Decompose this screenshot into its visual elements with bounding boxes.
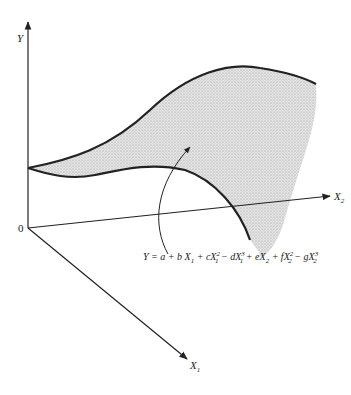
response-surface-diagram (0, 0, 351, 395)
x2-axis-label: X2 (334, 191, 344, 205)
surface-equation: Y = a + b X1 + cX21 − dX31 + eX2 + fX22 … (143, 250, 317, 265)
y-axis-label: Y (17, 33, 23, 44)
x1-axis (28, 228, 187, 359)
origin-label: 0 (18, 223, 24, 234)
surface-region (28, 66, 316, 258)
x1-axis-label: X1 (190, 360, 200, 374)
